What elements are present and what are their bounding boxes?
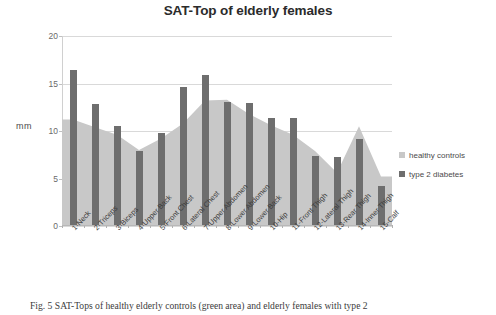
bar: [92, 104, 99, 226]
bar: [70, 70, 77, 226]
x-axis-tick-labels: 1-Neck2-Triceps3-Biceps4-Upper Back5-Fro…: [62, 226, 402, 288]
legend-label: type 2 diabetes: [409, 170, 463, 179]
legend-swatch: [399, 171, 405, 177]
y-axis-tick-labels: 05101520: [30, 36, 58, 226]
y-axis-tick-label: 10: [32, 126, 58, 136]
bar: [334, 157, 341, 226]
bar: [290, 118, 297, 226]
figure-container: SAT-Top of elderly females mm 05101520 1…: [0, 0, 496, 315]
legend-item: type 2 diabetes: [399, 169, 494, 179]
y-axis-tick-label: 15: [32, 79, 58, 89]
y-axis-tick-label: 20: [32, 31, 58, 41]
chart-legend: healthy controlstype 2 diabetes: [399, 150, 494, 188]
legend-item: healthy controls: [399, 150, 494, 160]
y-axis-tick-label: 5: [32, 174, 58, 184]
legend-label: healthy controls: [409, 151, 465, 160]
figure-caption: Fig. 5 SAT-Tops of healthy elderly contr…: [30, 300, 470, 311]
legend-swatch: [399, 152, 405, 158]
chart-title: SAT-Top of elderly females: [0, 3, 496, 18]
bar: [312, 156, 319, 226]
y-axis-tick-label: 0: [32, 221, 58, 231]
